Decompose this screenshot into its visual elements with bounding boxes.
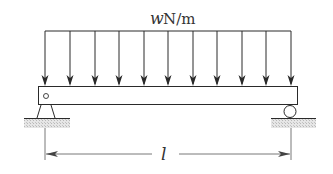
load-arrows	[42, 31, 295, 86]
load-arrow-icon	[214, 31, 221, 86]
load-arrow-icon	[288, 31, 295, 86]
roller-icon	[284, 106, 296, 118]
load-arrow-icon	[239, 31, 246, 86]
load-label: w N/m	[150, 9, 195, 28]
load-arrow-icon	[67, 31, 74, 86]
load-symbol: w	[150, 9, 164, 28]
load-arrow-icon	[116, 31, 123, 86]
left-ground-hatch	[24, 119, 70, 128]
roller-support	[271, 106, 316, 129]
load-arrow-icon	[190, 31, 197, 86]
span-length-label: l	[161, 144, 166, 164]
load-arrow-icon	[42, 31, 49, 86]
pin-hole-icon	[44, 94, 49, 99]
load-arrow-icon	[165, 31, 172, 86]
right-ground-hatch	[271, 119, 316, 128]
beam-diagram: w N/m	[0, 0, 333, 174]
pin-support-legs	[37, 105, 55, 118]
load-arrow-icon	[92, 31, 99, 86]
pin-support	[24, 105, 70, 128]
distributed-load	[42, 31, 295, 86]
beam	[39, 87, 298, 105]
span-dimension	[45, 128, 291, 160]
load-arrow-icon	[263, 31, 270, 86]
load-unit: N/m	[163, 10, 195, 28]
load-arrow-icon	[141, 31, 148, 86]
